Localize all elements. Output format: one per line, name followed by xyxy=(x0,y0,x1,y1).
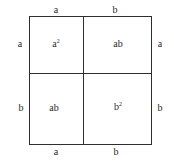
area-model-diagram: a b a b a b a b a2 ab ab b2 xyxy=(0,0,174,164)
horizontal-divider xyxy=(29,73,152,74)
top-label-b: b xyxy=(113,5,118,15)
cell-a-squared: a2 xyxy=(52,39,59,49)
outer-square xyxy=(29,16,152,145)
cell-ab-bottom-left: ab xyxy=(49,103,58,113)
cell-base: ab xyxy=(113,38,122,49)
vertical-divider xyxy=(83,16,84,145)
right-label-b: b xyxy=(158,103,163,113)
bottom-label-a: a xyxy=(54,147,58,157)
cell-base: ab xyxy=(49,102,58,113)
top-label-a: a xyxy=(54,5,58,15)
cell-exponent: 2 xyxy=(57,38,60,44)
left-label-a: a xyxy=(18,39,22,49)
left-label-b: b xyxy=(19,103,24,113)
right-label-a: a xyxy=(158,39,162,49)
bottom-label-b: b xyxy=(114,147,119,157)
cell-ab-top-right: ab xyxy=(113,39,122,49)
cell-b-squared: b2 xyxy=(114,102,122,112)
cell-exponent: 2 xyxy=(119,101,122,107)
